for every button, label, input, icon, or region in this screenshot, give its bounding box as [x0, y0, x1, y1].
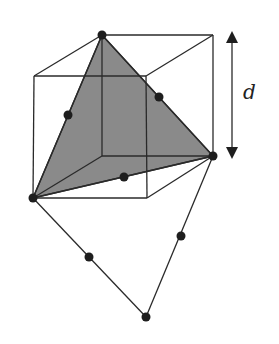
- diagram-canvas: d: [0, 0, 279, 344]
- vertex-left: [29, 194, 38, 203]
- midpoint-lower-left-edge: [85, 253, 94, 262]
- dimension-arrow: [226, 31, 238, 159]
- cube-diagram: [0, 0, 279, 344]
- midpoint-base-edge: [120, 173, 129, 182]
- arrow-down-icon: [226, 147, 238, 159]
- midpoint-top-left-edge: [64, 111, 73, 120]
- vertex-right: [209, 152, 218, 161]
- midpoint-lower-right-edge: [177, 232, 186, 241]
- vertex-top: [98, 31, 107, 40]
- arrow-up-icon: [226, 31, 238, 43]
- dimension-label: d: [243, 80, 256, 104]
- midpoint-top-right-edge: [155, 93, 164, 102]
- vertex-bottom: [142, 313, 151, 322]
